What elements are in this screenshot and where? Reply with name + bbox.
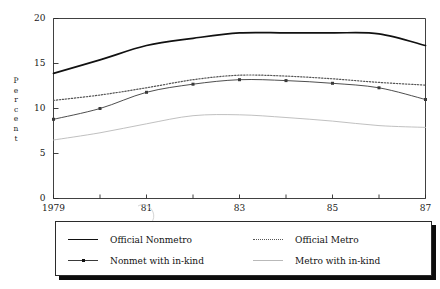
- legend-entry-2[interactable]: Nonmet with in-kind: [66, 253, 204, 269]
- series-marker: [192, 83, 195, 86]
- legend-key-line: [253, 239, 283, 240]
- legend-key-marker: [82, 259, 85, 262]
- legend-label: Official Metro: [295, 235, 359, 245]
- series-marker: [285, 79, 288, 82]
- axis-frame: [54, 19, 426, 199]
- legend-entry-3[interactable]: Metro with in-kind: [251, 253, 380, 269]
- legend-key-icon: [66, 255, 100, 267]
- series-marker: [424, 98, 427, 101]
- series-line-2: [54, 80, 426, 120]
- legend-label: Official Nonmetro: [110, 235, 192, 245]
- legend-label: Metro with in-kind: [295, 256, 380, 266]
- series-marker: [52, 118, 55, 121]
- legend-key-icon: [66, 234, 100, 246]
- series-line-3: [54, 115, 426, 140]
- legend-entry-1[interactable]: Official Metro: [251, 232, 359, 248]
- series-marker: [331, 82, 334, 85]
- chart-figure: Percent 05101520 197981838587 Official N…: [0, 0, 440, 289]
- legend-entry-0[interactable]: Official Nonmetro: [66, 232, 192, 248]
- legend-key-icon: [251, 255, 285, 267]
- series-line-0: [54, 33, 426, 74]
- legend-key-line: [68, 239, 98, 240]
- series-marker: [378, 86, 381, 89]
- series-marker: [238, 78, 241, 81]
- legend-label: Nonmet with in-kind: [110, 256, 204, 266]
- series-marker: [145, 91, 148, 94]
- legend-key-icon: [251, 234, 285, 246]
- legend-box: Official NonmetroOfficial MetroNonmet wi…: [55, 221, 432, 276]
- series-marker: [99, 107, 102, 110]
- legend-key-line: [253, 260, 283, 261]
